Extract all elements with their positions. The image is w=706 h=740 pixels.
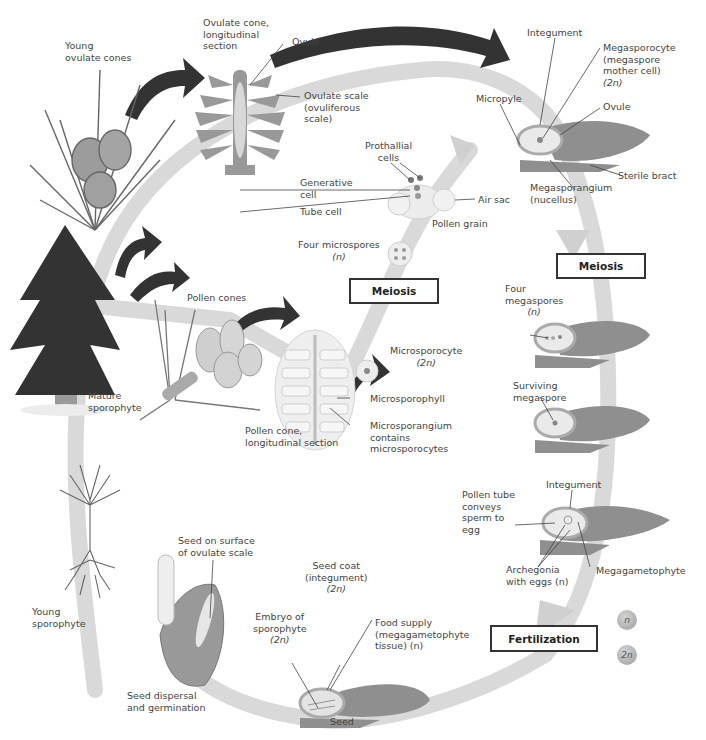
label-seed-coat: Seed coat (integument) (2n) xyxy=(305,560,368,595)
label-megasporangium: Megasporangium (nucellus) xyxy=(530,182,612,205)
label-line: Embryo of xyxy=(253,611,307,623)
label-line: mother cell) xyxy=(603,65,676,77)
label-line: Surviving xyxy=(513,380,566,392)
label-ovulate-cone-section: Ovulate cone, longitudinal section xyxy=(203,17,269,52)
label-ovule-right: Ovule xyxy=(603,101,631,113)
label-line: Pollen tube xyxy=(462,489,515,501)
label-line: Ovulate scale xyxy=(304,90,369,102)
seed-art xyxy=(300,684,430,728)
label-line: conveys xyxy=(462,501,515,513)
label-line: with eggs (n) xyxy=(506,576,568,588)
label-line: contains xyxy=(370,432,452,444)
label-prothallial-cells: Prothallial cells xyxy=(365,140,412,163)
label-line: scale) xyxy=(304,113,369,125)
ovule-fertilization xyxy=(540,506,670,555)
label-young-ovulate-cones: Young ovulate cones xyxy=(65,40,131,63)
label-line: Seed on surface xyxy=(178,535,255,547)
label-line: Megasporangium xyxy=(530,182,612,194)
label-line: cell xyxy=(300,189,353,201)
label-line: sperm to xyxy=(462,512,515,524)
label-line: Mature xyxy=(88,390,142,402)
label-pollen-cone-section: Pollen cone, longitudinal section xyxy=(245,425,338,448)
label-line: section xyxy=(203,40,269,52)
label-line: Seed coat xyxy=(305,560,368,572)
label-pollen-tube: Pollen tube conveys sperm to egg xyxy=(462,489,515,535)
label-mature-sporophyte: Mature sporophyte xyxy=(88,390,142,413)
label-line: megaspores xyxy=(505,295,563,307)
label-line: (2n) xyxy=(253,634,307,646)
label-line: microsporocytes xyxy=(370,443,452,455)
meiosis-box-left: Meiosis xyxy=(349,278,439,304)
label-line: Food supply xyxy=(375,617,469,629)
label-micropyle: Micropyle xyxy=(476,93,522,105)
label-surviving-megaspore: Surviving megaspore xyxy=(513,380,566,403)
ovule-surviving-megaspore xyxy=(535,406,650,453)
label-line: longitudinal section xyxy=(245,437,338,449)
label-line: Prothallial xyxy=(365,140,412,152)
label-air-sac: Air sac xyxy=(478,194,510,206)
meiosis-box-right: Meiosis xyxy=(556,253,646,279)
label-line: (2n) xyxy=(305,583,368,595)
label-line: (nucellus) xyxy=(530,194,612,206)
label-line: sporophyte xyxy=(32,618,86,630)
legend-diploid-icon: 2n xyxy=(617,645,637,665)
label-integument-lower: Integument xyxy=(546,479,601,491)
label-line: (2n) xyxy=(390,357,462,369)
ovulate-cone-section-art xyxy=(195,70,285,175)
label-four-megaspores: Four megaspores (n) xyxy=(505,283,563,318)
label-line: (ovuliferous xyxy=(304,102,369,114)
pine-life-cycle-diagram: Young ovulate cones Ovulate cone, longit… xyxy=(0,0,706,740)
label-line: Megasporocyte xyxy=(603,42,676,54)
label-microsporangium: Microsporangium contains microsporocytes xyxy=(370,420,452,455)
label-pollen-cones: Pollen cones xyxy=(187,292,246,304)
label-line: Microsporangium xyxy=(370,420,452,432)
label-line: Four microspores xyxy=(298,239,380,251)
label-seed-on-surface: Seed on surface of ovulate scale xyxy=(178,535,255,558)
label-pollen-grain: Pollen grain xyxy=(432,218,488,230)
label-line: ovulate cones xyxy=(65,52,131,64)
ovule-top xyxy=(518,121,650,172)
label-line: and germination xyxy=(127,702,205,714)
label-line: (megaspore xyxy=(603,54,676,66)
label-line: (2n) xyxy=(603,77,676,89)
label-embryo: Embryo of sporophyte (2n) xyxy=(253,611,307,646)
label-line: Young xyxy=(65,40,131,52)
label-line: cells xyxy=(365,152,412,164)
label-line: (n) xyxy=(298,251,380,263)
label-line: longitudinal xyxy=(203,29,269,41)
ovule-structures-art xyxy=(300,121,670,728)
label-line: Pollen cone, xyxy=(245,425,338,437)
ovule-four-megaspores xyxy=(535,321,650,368)
label-line: egg xyxy=(462,524,515,536)
label-sterile-bract: Sterile bract xyxy=(618,170,676,182)
label-tube-cell: Tube cell xyxy=(300,206,342,218)
label-line: Young xyxy=(32,606,86,618)
label-line: (n) xyxy=(505,306,563,318)
label-ovule-top: Ovule xyxy=(292,36,320,48)
label-ovulate-scale: Ovulate scale (ovuliferous scale) xyxy=(304,90,369,125)
label-line: megaspore xyxy=(513,392,566,404)
label-young-sporophyte: Young sporophyte xyxy=(32,606,86,629)
label-line: Microsporocyte xyxy=(390,345,462,357)
label-megagametophyte: Megagametophyte xyxy=(596,565,686,577)
label-line: Generative xyxy=(300,177,353,189)
label-microsporophyll: Microsporophyll xyxy=(370,393,445,405)
label-food-supply: Food supply (megagametophyte tissue) (n) xyxy=(375,617,469,652)
label-line: Seed dispersal xyxy=(127,690,205,702)
label-line: (megagametophyte xyxy=(375,629,469,641)
label-line: sporophyte xyxy=(253,623,307,635)
label-microsporocyte: Microsporocyte (2n) xyxy=(390,345,462,368)
label-seed: Seed xyxy=(330,716,354,728)
label-line: Ovulate cone, xyxy=(203,17,269,29)
label-archegonia: Archegonia with eggs (n) xyxy=(506,564,568,587)
fertilization-box: Fertilization xyxy=(490,625,598,652)
label-four-microspores: Four microspores (n) xyxy=(298,239,380,262)
label-generative-cell: Generative cell xyxy=(300,177,353,200)
label-seed-dispersal: Seed dispersal and germination xyxy=(127,690,205,713)
legend-haploid-icon: n xyxy=(617,610,637,630)
label-line: of ovulate scale xyxy=(178,547,255,559)
label-integument-top: Integument xyxy=(527,27,582,39)
label-line: tissue) (n) xyxy=(375,640,469,652)
label-line: (integument) xyxy=(305,572,368,584)
label-line: Four xyxy=(505,283,563,295)
